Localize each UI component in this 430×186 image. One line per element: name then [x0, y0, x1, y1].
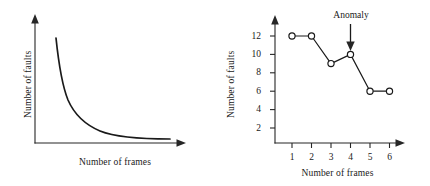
- right-y-tick-marks: [270, 36, 275, 128]
- right-x-axis-label: Number of frames: [265, 169, 410, 179]
- chart-left-decay-curve: Number of faults Number of frames: [0, 0, 215, 186]
- chart-right-anomaly-plot: 12 10 8 6 4 2 1 2 3 4 5 6 Number of faul…: [215, 0, 430, 186]
- right-series-markers: [289, 33, 393, 94]
- right-y-axis-label: Number of faults: [227, 51, 237, 118]
- x-tick-label-4: 4: [341, 153, 361, 163]
- data-point-3: [328, 61, 334, 67]
- figure-root: Number of faults Number of frames: [0, 0, 430, 186]
- data-point-6: [386, 88, 392, 94]
- x-tick-label-6: 6: [380, 153, 400, 163]
- anomaly-annotation-arrow: [346, 24, 354, 51]
- data-point-1: [289, 33, 295, 39]
- y-tick-label-10: 10: [239, 50, 261, 60]
- data-point-2: [308, 33, 314, 39]
- x-tick-label-2: 2: [302, 153, 322, 163]
- left-x-axis-arrowhead: [177, 139, 187, 147]
- data-point-5: [367, 88, 373, 94]
- y-tick-label-2: 2: [239, 124, 261, 134]
- left-y-axis-label: Number of faults: [24, 51, 34, 118]
- data-point-4: [347, 51, 353, 57]
- x-tick-label-3: 3: [321, 153, 341, 163]
- right-y-axis-arrowhead: [271, 15, 279, 25]
- x-tick-label-5: 5: [360, 153, 380, 163]
- left-x-axis-label: Number of frames: [40, 158, 190, 168]
- y-tick-label-4: 4: [239, 105, 261, 115]
- anomaly-annotation-label: Anomaly: [320, 11, 382, 21]
- y-tick-label-12: 12: [239, 32, 261, 42]
- x-tick-label-1: 1: [282, 153, 302, 163]
- right-x-axis-arrowhead: [396, 139, 406, 147]
- right-x-tick-marks: [292, 143, 390, 148]
- left-y-axis-arrowhead: [31, 14, 39, 24]
- y-tick-label-6: 6: [239, 87, 261, 97]
- right-series-polyline: [292, 36, 390, 91]
- left-decay-curve-path: [56, 38, 170, 139]
- y-tick-label-8: 8: [239, 68, 261, 78]
